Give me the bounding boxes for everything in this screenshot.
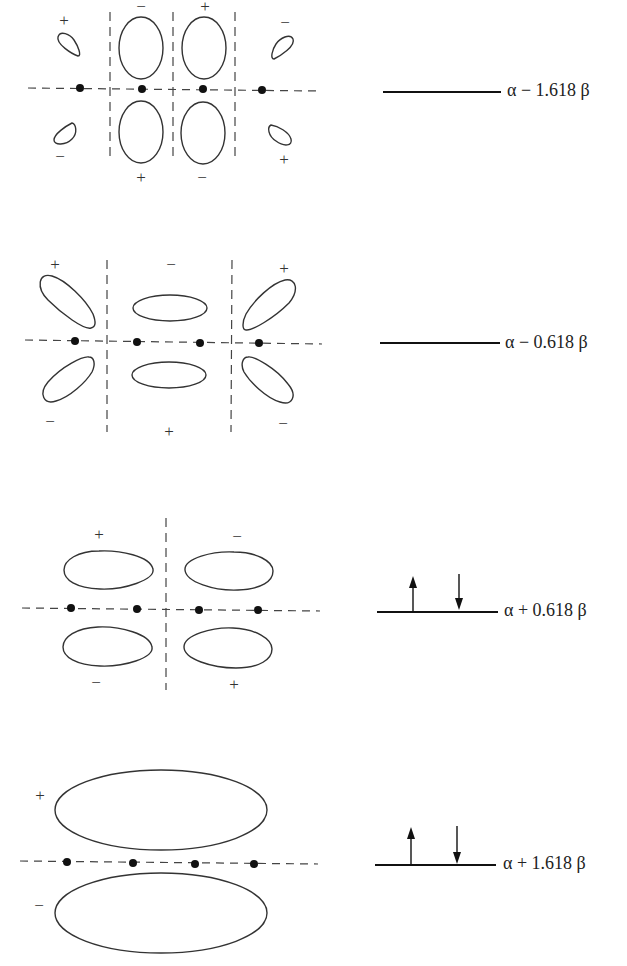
phase-sign: +: [35, 786, 45, 805]
p-lobe: [63, 627, 152, 666]
carbon-atom: [76, 84, 84, 92]
carbon-atom: [196, 339, 204, 347]
p-lobe: [132, 362, 206, 388]
p-lobe: [119, 17, 163, 79]
carbon-atom: [133, 605, 141, 613]
energy-label: α + 1.618 β: [503, 853, 586, 874]
p-lobe: [184, 628, 272, 668]
p-lobe: [55, 770, 267, 850]
phase-sign: −: [197, 168, 207, 187]
p-lobe: [119, 101, 163, 163]
p-lobe: [243, 280, 295, 330]
phase-sign: −: [55, 147, 65, 166]
phase-sign: +: [59, 11, 69, 30]
phase-sign: +: [50, 255, 60, 274]
energy-label: α + 0.618 β: [504, 600, 587, 621]
phase-sign: −: [91, 673, 101, 692]
carbon-atom: [258, 86, 266, 94]
energy-label: α − 0.618 β: [505, 332, 588, 353]
carbon-atom: [195, 606, 203, 614]
carbon-atom: [255, 339, 263, 347]
carbon-atom: [191, 860, 199, 868]
p-lobe: [242, 357, 293, 403]
phase-sign: +: [279, 259, 289, 278]
orbital-psi4: + − + − − + − +: [28, 0, 501, 187]
p-lobe: [43, 357, 94, 402]
carbon-atom: [199, 85, 207, 93]
phase-sign: +: [279, 150, 289, 169]
molecular-axis: [25, 340, 322, 344]
nodal-plane: [231, 260, 232, 432]
p-lobe: [185, 552, 273, 590]
phase-sign: −: [34, 896, 44, 915]
p-lobe: [133, 295, 207, 321]
p-lobe: [58, 33, 80, 56]
p-lobe: [55, 873, 267, 953]
phase-sign: +: [94, 525, 104, 544]
phase-sign: −: [136, 0, 146, 16]
phase-sign: +: [200, 0, 210, 16]
p-lobe: [181, 102, 225, 164]
phase-sign: −: [280, 13, 290, 32]
p-lobe: [182, 17, 226, 79]
phase-sign: −: [232, 527, 242, 546]
phase-sign: −: [166, 255, 176, 274]
spin-up-electron: [407, 827, 415, 865]
carbon-atom: [67, 604, 75, 612]
carbon-atom: [250, 860, 258, 868]
p-lobe: [272, 36, 294, 59]
molecular-axis: [28, 88, 320, 91]
carbon-atom: [129, 859, 137, 867]
spin-down-electron: [453, 826, 461, 864]
molecular-axis: [22, 608, 320, 611]
orbital-psi2: + − − +: [22, 518, 498, 694]
carbon-atom: [63, 858, 71, 866]
phase-sign: −: [45, 412, 55, 431]
p-lobe: [54, 123, 76, 144]
carbon-atom: [138, 85, 146, 93]
p-lobe: [269, 125, 292, 145]
phase-sign: +: [229, 675, 239, 694]
orbital-psi3: + − + − + −: [25, 255, 500, 441]
huckel-mo-diagram: + − + − − + − + + − + − + −: [0, 0, 627, 966]
p-lobe: [40, 275, 95, 328]
orbital-psi1: + −: [20, 770, 496, 953]
carbon-atom: [133, 338, 141, 346]
carbon-atom: [254, 606, 262, 614]
carbon-atom: [71, 337, 79, 345]
phase-sign: −: [278, 414, 288, 433]
phase-sign: +: [136, 168, 146, 187]
spin-down-electron: [455, 574, 463, 610]
phase-sign: +: [164, 422, 174, 441]
p-lobe: [64, 551, 153, 589]
energy-label: α − 1.618 β: [507, 80, 590, 101]
spin-up-electron: [409, 576, 417, 612]
